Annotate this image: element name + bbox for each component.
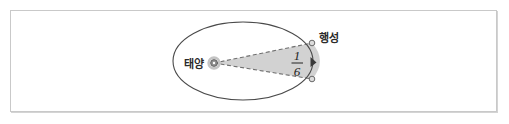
fraction-numerator: 1 bbox=[294, 48, 301, 63]
orbit-diagram: 태양 행성 1 6 bbox=[0, 0, 509, 124]
fraction-denominator: 6 bbox=[294, 64, 301, 79]
planet-marker-lower-icon bbox=[309, 76, 315, 82]
swept-area-sector bbox=[214, 43, 320, 79]
planet-marker-upper-icon bbox=[309, 40, 315, 46]
sun-label: 태양 bbox=[184, 57, 204, 70]
screenshot-root: 태양 행성 1 6 bbox=[0, 0, 509, 124]
sun-core-icon bbox=[213, 62, 215, 64]
planet-label: 행성 bbox=[319, 31, 339, 44]
